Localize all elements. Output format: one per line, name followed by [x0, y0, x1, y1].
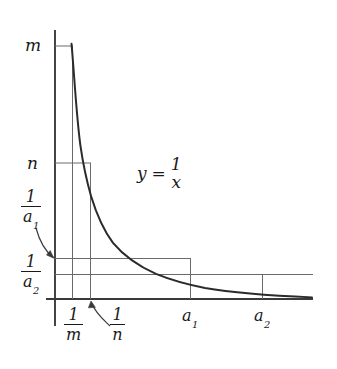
- x-label-a2: a2: [254, 308, 270, 327]
- equation-denominator: x: [171, 173, 181, 191]
- x-label-inv-n-numerator: 1: [110, 306, 124, 323]
- y-label-inv-a1-denominator: a1: [21, 208, 41, 229]
- curve-y-equals-1-over-x: [72, 44, 313, 298]
- equation-operator: =: [152, 163, 166, 183]
- equation-numerator: 1: [171, 155, 182, 173]
- x-label-inv-n-denominator: n: [110, 326, 124, 343]
- equation-fraction: 1 x: [171, 155, 182, 192]
- y-label-inv-a2-numerator: 1: [24, 253, 38, 270]
- y-label-n: n: [27, 155, 38, 172]
- figure-canvas: m n 1 a1 1 a2 1 m 1 n a1 a2 y = 1 x: [0, 0, 337, 369]
- y-label-inv-a2-denominator: a2: [21, 273, 41, 294]
- arrow-to-inv-n-head: [88, 301, 95, 308]
- x-label-inv-m-numerator: 1: [66, 306, 80, 323]
- equation-lhs: y: [137, 163, 147, 183]
- y-label-inv-a1-numerator: 1: [24, 188, 38, 205]
- x-label-a1: a1: [182, 308, 198, 327]
- equation-label: y = 1 x: [137, 155, 182, 192]
- y-label-inv-a1: 1 a1: [21, 188, 41, 229]
- x-label-inv-m: 1 m: [64, 306, 83, 344]
- x-label-inv-n: 1 n: [110, 306, 125, 344]
- x-label-inv-m-denominator: m: [64, 326, 83, 343]
- y-label-m: m: [25, 37, 41, 54]
- y-label-inv-a2: 1 a2: [21, 253, 41, 294]
